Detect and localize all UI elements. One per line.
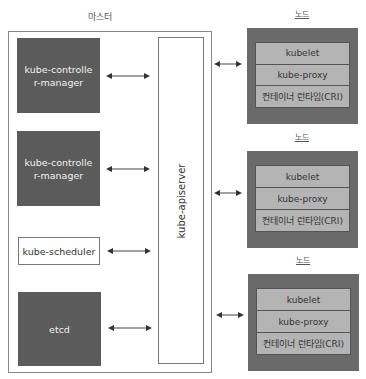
etcd-box: etcd — [18, 292, 101, 366]
controller-manager-label-2: kube-controller-manager — [24, 156, 94, 182]
container-runtime-row: 컨테이너 런타임(CRI) — [257, 333, 350, 354]
node-box-3: kubelet kube-proxy 컨테이너 런타임(CRI) — [248, 274, 359, 371]
double-arrow-icon — [107, 247, 151, 255]
kubelet-row: kubelet — [256, 43, 349, 65]
kubelet-row: kubelet — [257, 289, 350, 311]
container-runtime-row: 컨테이너 런타임(CRI) — [256, 210, 349, 231]
node-components-1: kubelet kube-proxy 컨테이너 런타임(CRI) — [255, 42, 350, 108]
master-title: 마스터 — [70, 10, 130, 23]
double-arrow-icon — [106, 72, 150, 80]
kube-proxy-row: kube-proxy — [256, 65, 349, 87]
double-arrow-icon — [214, 189, 242, 197]
apiserver-box: kube-apiserver — [158, 37, 204, 364]
apiserver-label: kube-apiserver — [176, 163, 187, 238]
controller-manager-label-1: kube-controller-manager — [24, 63, 94, 89]
node-title-2: 노드 — [282, 131, 322, 142]
scheduler-box: kube-scheduler — [18, 237, 100, 265]
node-box-2: kubelet kube-proxy 컨테이너 런타임(CRI) — [247, 151, 358, 248]
double-arrow-icon — [216, 311, 244, 319]
node-title-3: 노드 — [283, 254, 323, 265]
kube-proxy-row: kube-proxy — [256, 188, 349, 210]
container-runtime-row: 컨테이너 런타임(CRI) — [256, 86, 349, 107]
double-arrow-icon — [214, 60, 242, 68]
double-arrow-icon — [106, 165, 150, 173]
node-components-3: kubelet kube-proxy 컨테이너 런타임(CRI) — [256, 288, 351, 355]
node-title-1: 노드 — [282, 8, 322, 19]
kubelet-row: kubelet — [256, 166, 349, 188]
kube-proxy-row: kube-proxy — [257, 311, 350, 333]
etcd-label: etcd — [49, 323, 70, 336]
double-arrow-icon — [108, 324, 152, 332]
controller-manager-box-1: kube-controller-manager — [17, 38, 100, 113]
node-components-2: kubelet kube-proxy 컨테이너 런타임(CRI) — [255, 165, 350, 232]
node-box-1: kubelet kube-proxy 컨테이너 런타임(CRI) — [247, 28, 358, 124]
controller-manager-box-2: kube-controller-manager — [17, 131, 100, 206]
scheduler-label: kube-scheduler — [22, 246, 95, 257]
